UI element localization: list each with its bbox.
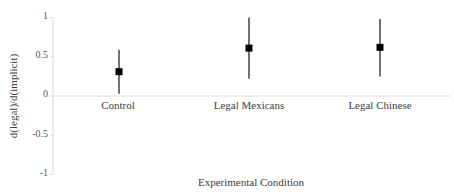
- x-axis-label: Experimental Condition: [198, 176, 304, 188]
- y-tick-label: -1: [18, 167, 48, 178]
- data-point-marker: [116, 68, 123, 75]
- y-tick-label: 0: [18, 88, 48, 99]
- data-point-marker: [246, 45, 253, 52]
- plot-area: [0, 0, 454, 192]
- x-tick-label-legal-mexicans: Legal Mexicans: [214, 99, 285, 111]
- chart: d(legal)/d(implicit) 1 0.5 0 -0.5 -1 Con…: [0, 0, 454, 192]
- x-tick-label-control: Control: [101, 99, 135, 111]
- y-tick-label: 1: [18, 10, 48, 21]
- x-tick-label-legal-chinese: Legal Chinese: [348, 99, 411, 111]
- data-point-marker: [377, 44, 384, 51]
- y-tick-label: 0.5: [18, 49, 48, 60]
- y-tick-label: -0.5: [18, 128, 48, 139]
